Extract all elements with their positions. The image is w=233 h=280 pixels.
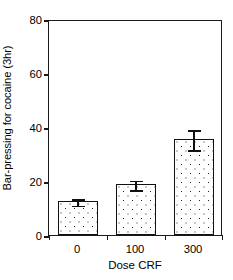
- x-tick-label: 300: [173, 243, 213, 255]
- y-tick-mark: [44, 128, 49, 129]
- x-tick-mark: [165, 235, 166, 240]
- plot-area: [48, 20, 222, 236]
- error-bar-cap-upper: [130, 181, 143, 183]
- x-axis-tick-labels: 0 100 300: [48, 243, 222, 257]
- error-bar-cap-upper: [72, 199, 85, 201]
- y-tick-label: 80: [20, 15, 42, 25]
- error-bar-cap-upper: [188, 130, 201, 132]
- y-tick-label: 20: [20, 177, 42, 187]
- x-tick-mark: [222, 235, 223, 240]
- bar: [174, 139, 214, 235]
- y-tick-label: 60: [20, 69, 42, 79]
- y-tick-label: 0: [20, 231, 42, 241]
- error-bar-cap-lower: [130, 190, 143, 192]
- y-tick-label: 40: [20, 123, 42, 133]
- y-axis-title: Bar-pressing for cocaine (3hr): [0, 0, 15, 236]
- bar: [116, 184, 156, 235]
- bar-chart-figure: Bar-pressing for cocaine (3hr) 0 20 40 6…: [0, 0, 233, 280]
- error-bar: [58, 199, 98, 207]
- y-tick-mark: [44, 74, 49, 75]
- x-tick-mark: [107, 235, 108, 240]
- y-tick-mark: [44, 182, 49, 183]
- x-tick-label: 0: [57, 243, 97, 255]
- x-axis-title: Dose CRF: [48, 259, 222, 272]
- error-bar-stem: [193, 130, 195, 152]
- error-bar: [116, 181, 156, 192]
- error-bar-cap-lower: [188, 150, 201, 152]
- error-bar-cap-lower: [72, 206, 85, 208]
- y-tick-mark: [44, 20, 49, 21]
- x-tick-mark: [49, 235, 50, 240]
- x-tick-label: 100: [115, 243, 155, 255]
- y-axis-tick-labels: 0 20 40 60 80: [18, 0, 42, 280]
- error-bar: [174, 130, 214, 152]
